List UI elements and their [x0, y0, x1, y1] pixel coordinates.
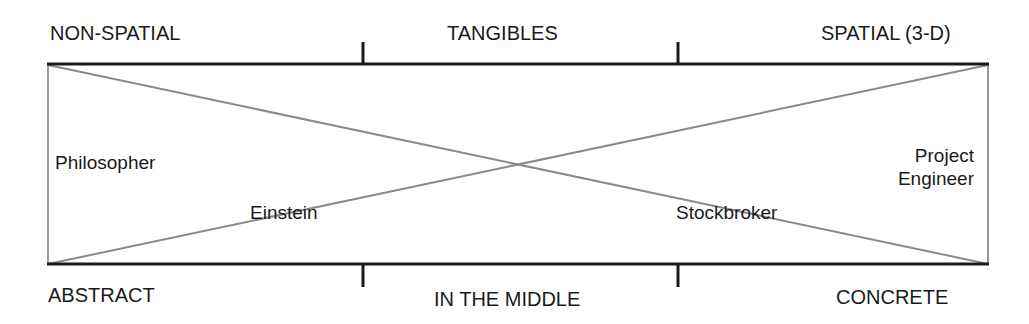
label-tangibles: TANGIBLES — [447, 23, 558, 43]
role-philosopher: Philosopher — [55, 153, 155, 173]
role-einstein: Einstein — [250, 203, 318, 223]
label-spatial-3d: SPATIAL (3-D) — [821, 23, 951, 43]
label-concrete: CONCRETE — [836, 287, 948, 307]
role-project-engineer-line2: Engineer — [898, 169, 974, 189]
label-in-the-middle: IN THE MIDDLE — [434, 289, 580, 309]
role-stockbroker: Stockbroker — [676, 203, 777, 223]
role-project-engineer-line1: Project — [915, 146, 974, 166]
label-non-spatial: NON-SPATIAL — [50, 23, 180, 43]
label-abstract: ABSTRACT — [48, 285, 155, 305]
